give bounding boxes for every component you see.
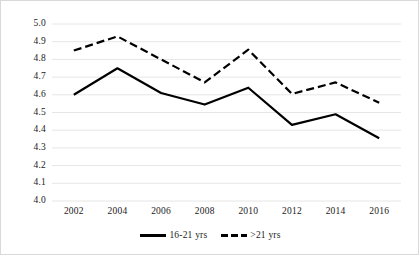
x-tick-label: 2002 [54, 206, 94, 216]
x-tick-label: 2008 [185, 206, 225, 216]
y-tick-label: 4.0 [20, 195, 46, 205]
legend-label-over-21-yrs: >21 yrs [250, 230, 280, 240]
legend-item-over-21-yrs[interactable]: >21 yrs [221, 230, 280, 240]
x-tick-label: 2010 [228, 206, 268, 216]
x-tick-label: 2004 [97, 206, 137, 216]
y-tick-label: 4.8 [20, 53, 46, 63]
y-tick-label: 4.7 [20, 71, 46, 81]
legend-swatch-solid-icon [140, 234, 166, 237]
y-tick-label: 4.6 [20, 89, 46, 99]
y-tick-label: 5.0 [20, 18, 46, 28]
x-tick-label: 2016 [359, 206, 399, 216]
legend-swatch-dashed-icon [221, 234, 247, 237]
legend-item-16-21-yrs[interactable]: 16-21 yrs [140, 230, 207, 240]
chart-figure: 5.04.94.84.74.64.54.44.34.24.14.0 200220… [0, 0, 419, 255]
y-tick-label: 4.1 [20, 177, 46, 187]
series-lines [74, 36, 379, 138]
y-tick-label: 4.4 [20, 124, 46, 134]
y-tick-label: 4.5 [20, 107, 46, 117]
series-line-16-21-yrs [74, 68, 379, 138]
y-tick-label: 4.2 [20, 160, 46, 170]
x-tick-label: 2012 [272, 206, 312, 216]
y-tick-label: 4.3 [20, 142, 46, 152]
plot-area [1, 1, 419, 255]
gridlines [52, 24, 401, 201]
y-tick-label: 4.9 [20, 36, 46, 46]
chart-legend: 16-21 yrs >21 yrs [1, 230, 419, 240]
x-tick-label: 2014 [316, 206, 356, 216]
x-tick-label: 2006 [141, 206, 181, 216]
legend-label-16-21-yrs: 16-21 yrs [169, 230, 207, 240]
